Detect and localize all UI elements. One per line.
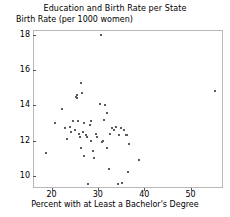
x-axis-label: Percent with at Least a Bachelor's Degre… — [0, 200, 230, 209]
scatter-chart-figure: Education and Birth Rate per State Birth… — [0, 0, 230, 217]
x-tick-mark — [191, 188, 192, 191]
x-axis-ticks: 20304050 — [0, 0, 230, 217]
x-tick-mark — [98, 188, 99, 191]
x-tick-label: 20 — [40, 191, 64, 199]
x-tick-label: 50 — [179, 191, 203, 199]
x-tick-label: 40 — [132, 191, 156, 199]
x-tick-mark — [144, 188, 145, 191]
x-tick-label: 30 — [86, 191, 110, 199]
x-tick-mark — [52, 188, 53, 191]
